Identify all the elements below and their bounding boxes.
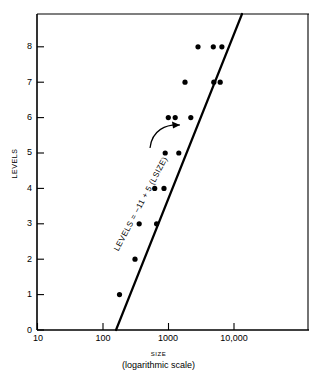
data-point	[182, 80, 187, 85]
chart-canvas: LEVELS = −11 + 5 (LSIZE)	[0, 0, 317, 377]
y-tick-label-4: 4	[18, 183, 32, 193]
axes	[37, 14, 309, 330]
data-point	[117, 292, 122, 297]
y-axis-title: LEVELS	[11, 134, 18, 194]
y-tick-label-5: 5	[18, 147, 32, 157]
data-point	[166, 115, 171, 120]
data-point	[154, 221, 159, 226]
data-point	[176, 150, 181, 155]
x-tick-label-100: 100	[81, 333, 125, 343]
data-point	[137, 221, 142, 226]
regression-line	[116, 14, 242, 330]
annotation-arrow	[150, 122, 180, 149]
data-point	[211, 44, 216, 49]
data-point	[161, 186, 166, 191]
y-tick-label-6: 6	[18, 112, 32, 122]
x-axis-title: SIZE	[0, 351, 317, 357]
x-tick-label-10: 10	[16, 333, 60, 343]
x-tick-label-10000: 10,000	[212, 333, 256, 343]
y-axis-ticks	[37, 47, 44, 330]
y-tick-label-7: 7	[18, 77, 32, 87]
data-point	[211, 80, 216, 85]
data-point	[173, 115, 178, 120]
y-tick-label-2: 2	[18, 254, 32, 264]
y-tick-label-3: 3	[18, 218, 32, 228]
data-point	[195, 44, 200, 49]
fit-equation-label: LEVELS = −11 + 5 (LSIZE)	[112, 155, 169, 252]
data-point	[219, 44, 224, 49]
data-point	[132, 257, 137, 262]
scatter-plot-figure: LEVELS = −11 + 5 (LSIZE) 0 1 2 3 4 5 6 7…	[0, 0, 317, 377]
data-point	[218, 80, 223, 85]
x-axis-ticks	[38, 323, 235, 330]
x-axis-subtitle: (logarithmic scale)	[0, 360, 317, 370]
data-point	[188, 115, 193, 120]
data-points	[117, 44, 225, 297]
data-point	[163, 150, 168, 155]
y-tick-label-8: 8	[18, 41, 32, 51]
x-tick-label-1000: 1000	[146, 333, 190, 343]
y-tick-label-1: 1	[18, 289, 32, 299]
